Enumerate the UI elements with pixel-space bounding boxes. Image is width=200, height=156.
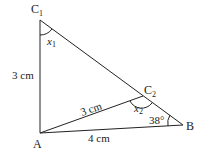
vertex-label-c2: C2 bbox=[144, 83, 156, 99]
angle-label-b: 38° bbox=[149, 114, 164, 126]
vertex-label-c1: C1 bbox=[31, 2, 43, 18]
angle-arc-b bbox=[168, 115, 170, 126]
vertex-label-a: A bbox=[33, 137, 42, 151]
angle-label-x2: x2 bbox=[133, 102, 143, 116]
side-label-ac1: 3 cm bbox=[12, 69, 34, 81]
side-c1-b bbox=[40, 20, 183, 125]
side-a-b bbox=[40, 125, 183, 133]
angle-label-x1: x1 bbox=[46, 35, 56, 49]
vertex-label-b: B bbox=[186, 119, 194, 133]
triangle-diagram: C1 C2 A B 3 cm 3 cm 4 cm x1 x2 38° bbox=[0, 0, 200, 156]
side-label-ab: 4 cm bbox=[88, 132, 110, 144]
